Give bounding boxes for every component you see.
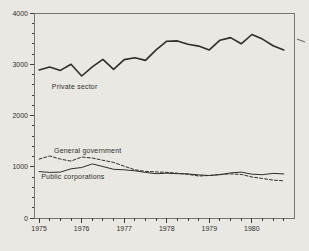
x-axis-tick-label: 1976 (74, 225, 90, 232)
line-chart-svg: 0100020003000400019751976197719781979198… (0, 0, 309, 251)
x-axis-tick-label: 1977 (116, 225, 132, 232)
y-axis-tick-label: 3000 (12, 61, 28, 68)
label-private-sector: Private sector (52, 83, 98, 91)
chart-area: 0100020003000400019751976197719781979198… (0, 0, 309, 251)
scan-artifact-mark (297, 39, 305, 42)
y-axis-tick-label: 2000 (12, 112, 28, 119)
label-public-corporations: Public corporations (41, 173, 104, 181)
x-axis-tick-label: 1978 (159, 225, 175, 232)
y-axis-tick-label: 1000 (12, 163, 28, 170)
y-axis-tick-label: 4000 (12, 10, 28, 17)
y-axis-tick-label: 0 (24, 215, 28, 222)
x-axis-tick-label: 1975 (31, 225, 47, 232)
series-line-private-sector (39, 35, 284, 77)
label-general-government: General government (54, 147, 121, 155)
x-axis-tick-label: 1980 (244, 225, 260, 232)
x-axis-tick-label: 1979 (202, 225, 218, 232)
